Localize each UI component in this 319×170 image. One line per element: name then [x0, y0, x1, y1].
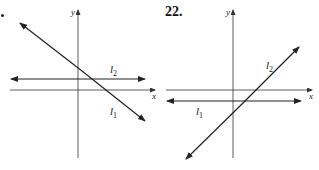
y-axis-label: y	[226, 8, 230, 17]
figure-right	[166, 10, 312, 159]
line-label-l1: l1	[110, 106, 117, 120]
line-label-subscript: 2	[269, 65, 273, 74]
problem-number: 22.	[165, 5, 183, 19]
line-l2-lower	[186, 104, 242, 159]
line-l2	[242, 47, 299, 104]
y-axis-label: y	[71, 8, 75, 17]
x-axis-label: x	[309, 92, 313, 101]
line-label-l2: l2	[266, 60, 273, 74]
x-axis-label: x	[152, 92, 156, 101]
line-l1-upper	[20, 23, 82, 71]
line-label-subscript: 1	[199, 111, 203, 120]
line-label-l2: l2	[110, 64, 117, 78]
line-label-subscript: 1	[113, 111, 117, 120]
line-label-l1: l1	[196, 106, 203, 120]
line-label-subscript: 2	[113, 69, 117, 78]
graphs-canvas	[0, 0, 319, 170]
figure-left	[10, 10, 155, 158]
